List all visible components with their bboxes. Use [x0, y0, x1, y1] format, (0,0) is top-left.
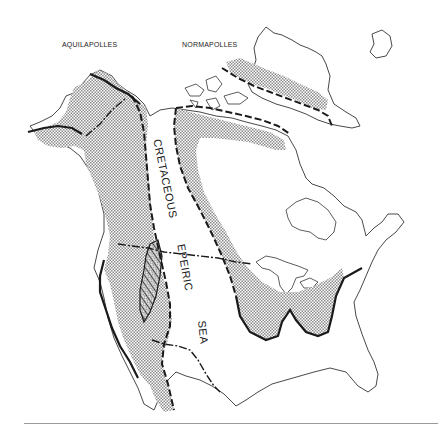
bottom-divider	[24, 423, 438, 424]
island-coastline	[370, 30, 392, 58]
paleogeographic-map: AQUILAPOLLES NORMAPOLLES CRETACEOUS EPEI…	[0, 0, 438, 427]
arctic-islands	[185, 76, 248, 110]
aquilapolles-label: AQUILAPOLLES	[62, 41, 117, 48]
map-drawing	[0, 0, 438, 427]
sea-label: SEA	[196, 320, 210, 345]
normapolles-label: NORMAPOLLES	[182, 41, 238, 48]
